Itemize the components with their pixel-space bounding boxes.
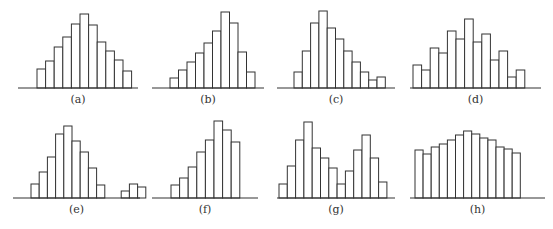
histogram-bar (279, 184, 287, 198)
panel-label: (h) (470, 203, 486, 216)
histogram-bar (223, 130, 232, 198)
histogram-bar (512, 153, 520, 198)
histogram-bar (464, 131, 472, 198)
panel-label: (b) (200, 93, 216, 106)
histogram-bar (345, 171, 353, 198)
histogram-bar (187, 62, 196, 88)
panel-label: (a) (70, 93, 85, 106)
histogram-bar (47, 157, 55, 198)
histogram-bar (80, 152, 88, 198)
histogram-panel-e: (e) (13, 126, 146, 216)
panel-label: (f) (199, 203, 212, 216)
histogram-bar (447, 31, 456, 88)
histogram-bar (304, 122, 312, 198)
histogram-bar (329, 168, 337, 198)
histogram-bar (431, 147, 439, 198)
histogram-bar (480, 138, 488, 198)
histogram-bar (89, 25, 98, 88)
histogram-panel-h: (h) (410, 131, 545, 216)
histogram-bar (56, 134, 64, 198)
histogram-bar (171, 185, 180, 198)
histogram-bar (80, 14, 89, 88)
histogram-bar (482, 34, 491, 88)
histogram-bar (354, 150, 362, 198)
histogram-bar (413, 65, 422, 88)
histogram-bar (294, 72, 302, 88)
histogram-bar (204, 43, 213, 88)
histogram-panel-b: (b) (152, 12, 264, 106)
histogram-bar (312, 148, 320, 198)
histogram-bar (472, 134, 480, 198)
histogram-bar (319, 11, 327, 88)
histogram-bar (344, 51, 352, 88)
histogram-bar (504, 149, 512, 198)
histogram-bar (465, 19, 474, 88)
panel-label: (e) (69, 203, 84, 216)
histogram-bar (129, 184, 137, 198)
histogram-bar (63, 37, 72, 88)
histogram-bar (37, 69, 46, 88)
histogram-bar (327, 28, 335, 88)
histogram-bar (516, 70, 525, 88)
histogram-panel-c: (c) (277, 11, 395, 106)
histogram-bar (88, 168, 96, 198)
histogram-bar (221, 12, 230, 88)
histogram-bar (123, 71, 132, 88)
histogram-bar (490, 60, 499, 88)
histogram-bar (39, 172, 47, 198)
histogram-bar (473, 42, 482, 88)
histogram-bar (231, 142, 240, 198)
histogram-bar (456, 39, 465, 88)
histogram-bar (31, 184, 39, 198)
histogram-panel-d: (d) (410, 19, 541, 106)
histogram-bar (362, 135, 370, 198)
histogram-bar (311, 23, 319, 88)
histogram-panel-a: (a) (18, 14, 138, 106)
histogram-bar (64, 126, 72, 198)
histogram-bar (287, 166, 295, 198)
histogram-bar (247, 72, 256, 88)
histogram-bar (238, 52, 247, 88)
histogram-bar (360, 72, 368, 88)
histogram-bar (72, 141, 80, 198)
histogram-bar (214, 121, 223, 198)
histogram-bar (337, 184, 345, 198)
histogram-bar (422, 70, 431, 88)
histogram-bar (71, 24, 80, 88)
histogram-bar (180, 178, 189, 198)
histogram-bar (106, 51, 115, 88)
histogram-bar (369, 80, 377, 88)
histogram-bar (179, 70, 188, 88)
histogram-bar (114, 60, 123, 88)
histogram-bar (302, 51, 310, 88)
histogram-grid: (a)(b)(c)(d)(e)(f)(g)(h) (0, 0, 553, 229)
histogram-bar (97, 42, 106, 88)
histogram-bar (496, 147, 504, 198)
histogram-bar (170, 78, 179, 88)
histogram-bar (296, 140, 304, 198)
histogram-bar (230, 23, 239, 88)
histogram-bar (439, 144, 447, 198)
histogram-bar (415, 150, 423, 198)
histogram-bar (188, 167, 197, 198)
histogram-bar (508, 77, 517, 88)
histogram-bar (321, 158, 329, 198)
histogram-bar (379, 182, 387, 198)
histogram-bar (205, 140, 214, 198)
histogram-bar (456, 135, 464, 198)
histogram-bar (336, 39, 344, 88)
histogram-bar (430, 48, 439, 88)
histogram-bar (377, 77, 385, 88)
histogram-bar (196, 53, 205, 88)
panel-label: (g) (328, 203, 344, 216)
histogram-bar (121, 191, 129, 198)
histogram-bar (423, 154, 431, 198)
histogram-bar (213, 31, 222, 88)
histogram-bar (46, 61, 55, 88)
histogram-bar (499, 51, 508, 88)
histogram-panel-f: (f) (152, 121, 258, 216)
histogram-bar (447, 140, 455, 198)
histogram-bar (439, 53, 448, 88)
histogram-panel-g: (g) (277, 122, 395, 216)
histogram-bar (97, 185, 105, 198)
